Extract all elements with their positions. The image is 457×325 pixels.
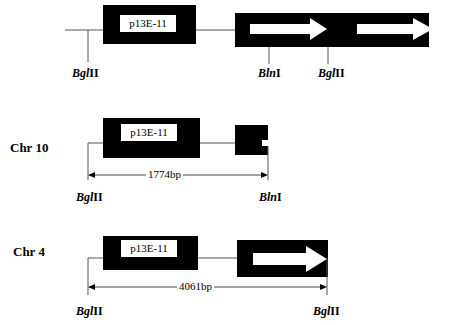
- restriction-site-label: BlnI: [258, 66, 281, 81]
- restriction-site-label: BglII: [72, 66, 99, 81]
- arrowhead-right-icon: [261, 172, 268, 178]
- restriction-site-label: BglII: [313, 304, 340, 319]
- chromosome-label: Chr 10: [10, 140, 48, 156]
- truncated-repeat-block: [235, 125, 268, 155]
- restriction-site-label: BglII: [76, 304, 103, 319]
- track-genomic: [65, 5, 433, 64]
- restriction-site-label: BglII: [76, 190, 103, 205]
- restriction-site-label: BglII: [318, 66, 345, 81]
- restriction-map-diagram: [0, 0, 457, 325]
- gene-label: p13E-11: [120, 15, 176, 32]
- fragment-size-label: 1774bp: [146, 168, 183, 180]
- gene-label: p13E-11: [121, 240, 177, 257]
- fragment-size-label: 4061bp: [177, 280, 214, 292]
- arrowhead-left-icon: [88, 172, 95, 178]
- restriction-site-label: BlnI: [259, 190, 282, 205]
- arrowhead-right-icon: [320, 284, 327, 290]
- arrowhead-left-icon: [88, 284, 95, 290]
- gene-label: p13E-11: [121, 124, 177, 141]
- chromosome-label: Chr 4: [13, 244, 45, 260]
